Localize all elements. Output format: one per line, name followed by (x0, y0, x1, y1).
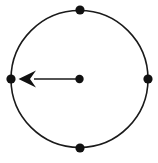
bottom-point (75, 143, 84, 152)
right-point (143, 74, 152, 83)
radius-arrow-head-icon (19, 71, 37, 88)
diagram-canvas (0, 0, 158, 163)
left-point (6, 74, 15, 83)
circle-diagram (0, 0, 158, 163)
top-point (75, 5, 84, 14)
center-point (75, 75, 83, 83)
